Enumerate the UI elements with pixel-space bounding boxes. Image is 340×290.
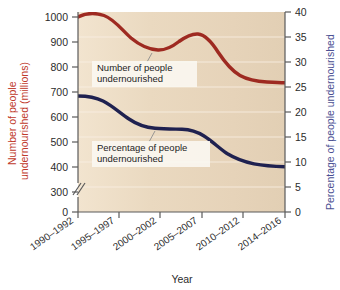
right-axis: 40 35 30 25 20 15 10 5 0 <box>285 6 307 218</box>
xtick-2010-2012: 2010–2012 <box>194 214 242 252</box>
undernourishment-chart: 1000 900 800 700 600 500 400 300 0 Numbe… <box>0 0 340 290</box>
right-tick-15: 15 <box>295 131 307 143</box>
annotation-blue-line1: Percentage of people <box>97 142 187 153</box>
xtick-2000-2002: 2000–2002 <box>111 214 159 252</box>
left-axis-title-line1: Number of people <box>6 81 18 165</box>
right-tick-20: 20 <box>295 106 307 118</box>
annotation-blue-line2: undernourished <box>97 153 163 164</box>
left-tick-800: 800 <box>50 61 68 73</box>
right-tick-0: 0 <box>295 206 301 218</box>
right-tick-30: 30 <box>295 56 307 68</box>
left-axis-title-line2: undernourished (millions) <box>18 62 30 180</box>
right-axis-title: Percentage of people undernourished <box>324 34 336 210</box>
left-tick-300: 300 <box>50 186 68 198</box>
left-tick-600: 600 <box>50 111 68 123</box>
xtick-1990-1992: 1990–1992 <box>28 214 76 252</box>
annotation-red-line2: undernourished <box>97 73 163 84</box>
xtick-2005-2007: 2005–2007 <box>152 214 200 252</box>
right-tick-5: 5 <box>295 181 301 193</box>
left-tick-500: 500 <box>50 136 68 148</box>
annotation-red-line1: Number of people <box>97 62 173 73</box>
left-tick-900: 900 <box>50 36 68 48</box>
chart-figure: 1000 900 800 700 600 500 400 300 0 Numbe… <box>0 0 340 290</box>
left-axis-title: Number of people undernourished (million… <box>6 62 30 180</box>
left-tick-400: 400 <box>50 161 68 173</box>
xtick-2014-2016: 2014–2016 <box>236 214 284 252</box>
right-tick-40: 40 <box>295 6 307 18</box>
x-axis: 1990–1992 1995–1997 2000–2002 2005–2007 … <box>28 212 285 252</box>
left-tick-700: 700 <box>50 86 68 98</box>
right-tick-25: 25 <box>295 81 307 93</box>
xtick-1995-1997: 1995–1997 <box>69 214 117 252</box>
right-tick-35: 35 <box>295 31 307 43</box>
right-tick-10: 10 <box>295 156 307 168</box>
x-axis-title: Year <box>171 273 193 285</box>
left-tick-1000: 1000 <box>45 11 69 23</box>
